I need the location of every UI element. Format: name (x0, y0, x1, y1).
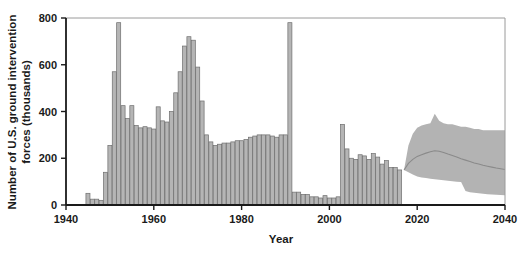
bar-1978 (231, 142, 235, 205)
bar-1950 (108, 145, 112, 205)
chart-figure: 0200400600800 194019601980200020202040 Y… (0, 0, 524, 254)
bar-1984 (257, 135, 261, 205)
bar-2006 (354, 159, 358, 205)
bar-1991 (288, 23, 292, 205)
x-tick-label-2000: 2000 (317, 213, 341, 225)
bar-1995 (305, 194, 309, 205)
bar-2015 (393, 168, 397, 205)
bar-1969 (191, 40, 195, 205)
x-tick-label-2040: 2040 (493, 213, 517, 225)
y-tick-label-200: 200 (39, 152, 57, 164)
bar-2013 (384, 161, 388, 205)
bar-1952 (117, 23, 121, 205)
bar-1999 (323, 196, 327, 205)
bar-1994 (301, 194, 305, 205)
bar-1992 (292, 192, 296, 205)
bar-1974 (213, 145, 217, 205)
bar-1968 (187, 37, 191, 205)
bar-1956 (134, 126, 138, 205)
y-tick-label-600: 600 (39, 59, 57, 71)
bar-2000 (327, 198, 331, 205)
bar-1960 (152, 129, 156, 205)
bar-1983 (253, 136, 257, 205)
bar-1959 (147, 128, 151, 205)
bar-2005 (349, 158, 353, 205)
bar-1997 (314, 197, 318, 205)
bar-1957 (139, 128, 143, 205)
y-tick-label-800: 800 (39, 12, 57, 24)
bar-1982 (248, 137, 252, 205)
bar-2008 (363, 156, 367, 205)
bar-1967 (183, 46, 187, 205)
bar-1993 (297, 192, 301, 205)
bar-2002 (336, 197, 340, 205)
bar-1976 (222, 143, 226, 205)
bar-1954 (125, 119, 129, 205)
y-tick-label-400: 400 (39, 106, 57, 118)
bar-1958 (143, 127, 147, 205)
bar-1949 (103, 172, 107, 205)
bar-1945 (86, 193, 90, 205)
y-tick-label-0: 0 (51, 199, 57, 211)
bar-2009 (367, 159, 371, 205)
bar-1998 (319, 198, 323, 205)
x-tick-label-1960: 1960 (142, 213, 166, 225)
bar-1965 (174, 93, 178, 205)
bar-1964 (169, 112, 173, 206)
bar-1971 (200, 101, 204, 205)
bar-1963 (165, 122, 169, 205)
chart-canvas: 0200400600800 194019601980200020202040 Y… (0, 0, 524, 254)
bar-1980 (240, 141, 244, 205)
x-axis-title: Year (269, 233, 294, 245)
bar-2003 (341, 124, 345, 205)
bar-1951 (112, 72, 116, 205)
y-axis-title-line1: Number of U.S. ground intervention (6, 15, 18, 210)
bar-2004 (345, 149, 349, 205)
bar-1970 (196, 67, 200, 205)
x-tick-label-2020: 2020 (405, 213, 429, 225)
bar-1985 (262, 135, 266, 205)
bar-1953 (121, 106, 125, 205)
bar-1962 (161, 121, 165, 205)
bar-1966 (178, 72, 182, 205)
bar-1987 (270, 136, 274, 205)
y-axis-title-line2: forces (thousands) (20, 60, 32, 164)
bar-1996 (310, 197, 314, 205)
bar-2014 (389, 168, 393, 205)
bar-2001 (332, 198, 336, 205)
bar-2010 (371, 154, 375, 205)
bar-1955 (130, 106, 134, 205)
x-tick-label-1980: 1980 (229, 213, 253, 225)
bar-1979 (235, 141, 239, 205)
bar-1981 (244, 140, 248, 205)
bar-2012 (380, 164, 384, 205)
bar-2016 (398, 170, 402, 205)
bar-2011 (376, 157, 380, 205)
bar-1977 (226, 143, 230, 205)
bar-1989 (279, 135, 283, 205)
bar-2007 (358, 155, 362, 205)
bar-1975 (218, 144, 222, 205)
bar-1972 (204, 135, 208, 205)
bar-1973 (209, 142, 213, 205)
bar-1986 (266, 135, 270, 205)
bar-1961 (156, 107, 160, 205)
x-tick-label-1940: 1940 (54, 213, 78, 225)
bar-1988 (275, 137, 279, 205)
bar-1990 (283, 135, 287, 205)
